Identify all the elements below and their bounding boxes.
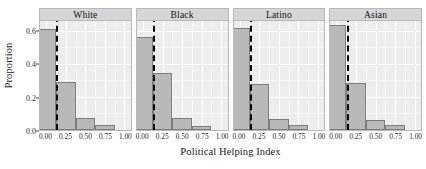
gridline-vertical-minor xyxy=(115,21,116,130)
histogram-bar xyxy=(269,119,289,130)
x-tick-mark xyxy=(356,130,357,131)
x-tick-mark xyxy=(240,130,241,131)
y-axis-title-text: Proportion xyxy=(4,43,15,89)
x-tick-label: 0.75 xyxy=(389,132,402,141)
facet-panel-latino: Latino xyxy=(233,8,326,131)
x-tick-mark xyxy=(337,130,338,131)
gridline-vertical xyxy=(415,21,416,130)
histogram-bar xyxy=(346,83,366,130)
facet-strip-label: Asian xyxy=(329,8,422,20)
plot-area xyxy=(329,20,422,131)
histogram-bar xyxy=(366,120,386,130)
x-tick-mark xyxy=(318,130,319,131)
x-tick-label: 0.50 xyxy=(79,132,92,141)
gridline-vertical-minor xyxy=(366,21,367,130)
gridline-vertical xyxy=(298,21,299,130)
x-tick-label: 0.00 xyxy=(136,132,149,141)
x-tick-mark xyxy=(395,130,396,131)
gridline-vertical-minor xyxy=(172,21,173,130)
gridline-horizontal xyxy=(137,130,228,131)
y-tick-label: 0.6 xyxy=(26,27,36,36)
gridline-vertical-minor xyxy=(385,21,386,130)
histogram-bar xyxy=(136,37,153,130)
gridline-vertical xyxy=(124,21,125,130)
plot-area xyxy=(136,20,229,131)
facet-strip-label: Black xyxy=(136,8,229,20)
histogram-bar xyxy=(76,118,96,130)
x-tick-label: 0.75 xyxy=(292,132,305,141)
y-axis: 0.00.20.40.6 xyxy=(18,21,39,131)
gridline-horizontal xyxy=(330,130,421,131)
x-tick-mark xyxy=(279,130,280,131)
x-tick-label: 0.25 xyxy=(156,132,169,141)
x-tick-label: 0.25 xyxy=(349,132,362,141)
x-tick-mark xyxy=(66,130,67,131)
x-tick-label: 0.25 xyxy=(59,132,72,141)
x-tick-label: 0.50 xyxy=(272,132,285,141)
x-tick-mark xyxy=(124,130,125,131)
gridline-vertical-minor xyxy=(289,21,290,130)
facet-panel-asian: Asian xyxy=(329,8,422,131)
gridline-vertical xyxy=(376,21,377,130)
gridline-vertical-minor xyxy=(211,21,212,130)
reference-line xyxy=(153,20,155,130)
x-tick-mark xyxy=(182,130,183,131)
x-tick-label: 1.00 xyxy=(216,132,229,141)
gridline-vertical-minor xyxy=(76,21,77,130)
gridline-vertical xyxy=(85,21,86,130)
plot-area xyxy=(233,20,326,131)
histogram-bar xyxy=(56,82,76,130)
histogram-bar xyxy=(250,84,270,130)
gridline-vertical xyxy=(221,21,222,130)
reference-line xyxy=(56,20,58,130)
plot-area xyxy=(39,20,132,131)
x-tick-mark xyxy=(85,130,86,131)
x-tick-mark xyxy=(163,130,164,131)
x-tick-label-group: 0.000.250.500.751.00 xyxy=(136,132,229,144)
reference-line xyxy=(250,20,252,130)
x-tick-label: 0.25 xyxy=(252,132,265,141)
x-tick-mark xyxy=(376,130,377,131)
x-tick-label-group: 0.000.250.500.751.00 xyxy=(233,132,326,144)
reference-line xyxy=(347,20,349,130)
x-tick-mark xyxy=(415,130,416,131)
histogram-bar xyxy=(233,28,250,130)
histogram-bar xyxy=(329,25,346,130)
histogram-figure: Proportion 0.00.20.40.6 WhiteBlackLatino… xyxy=(0,0,426,169)
facet-panel-white: White xyxy=(39,8,132,131)
x-tick-label-group: 0.000.250.500.751.00 xyxy=(329,132,422,144)
x-tick-mark xyxy=(221,130,222,131)
x-tick-label: 0.50 xyxy=(369,132,382,141)
histogram-bar xyxy=(153,73,173,130)
histogram-bar xyxy=(172,118,192,130)
gridline-vertical xyxy=(105,21,106,130)
facet-panels: WhiteBlackLatinoAsian xyxy=(39,8,422,131)
gridline-vertical-minor xyxy=(308,21,309,130)
x-tick-label: 0.00 xyxy=(39,132,52,141)
x-tick-label: 0.50 xyxy=(176,132,189,141)
x-tick-label: 1.00 xyxy=(119,132,132,141)
x-tick-label: 0.00 xyxy=(329,132,342,141)
x-tick-label: 1.00 xyxy=(409,132,422,141)
gridline-vertical-minor xyxy=(95,21,96,130)
x-tick-mark xyxy=(46,130,47,131)
facet-strip-label: White xyxy=(39,8,132,20)
facet-panel-black: Black xyxy=(136,8,229,131)
x-tick-mark xyxy=(105,130,106,131)
x-axis-tick-labels: 0.000.250.500.751.000.000.250.500.751.00… xyxy=(39,132,422,144)
gridline-vertical xyxy=(318,21,319,130)
gridline-vertical xyxy=(182,21,183,130)
x-tick-label: 0.75 xyxy=(99,132,112,141)
x-tick-label: 1.00 xyxy=(312,132,325,141)
gridline-vertical xyxy=(202,21,203,130)
histogram-bar xyxy=(39,29,56,130)
y-axis-title: Proportion xyxy=(0,0,18,131)
gridline-vertical-minor xyxy=(269,21,270,130)
x-tick-label: 0.00 xyxy=(232,132,245,141)
facet-strip-label: Latino xyxy=(233,8,326,20)
gridline-vertical xyxy=(395,21,396,130)
gridline-vertical xyxy=(279,21,280,130)
x-tick-mark xyxy=(143,130,144,131)
y-tick-label: 0.4 xyxy=(26,60,36,69)
gridline-horizontal xyxy=(234,130,325,131)
